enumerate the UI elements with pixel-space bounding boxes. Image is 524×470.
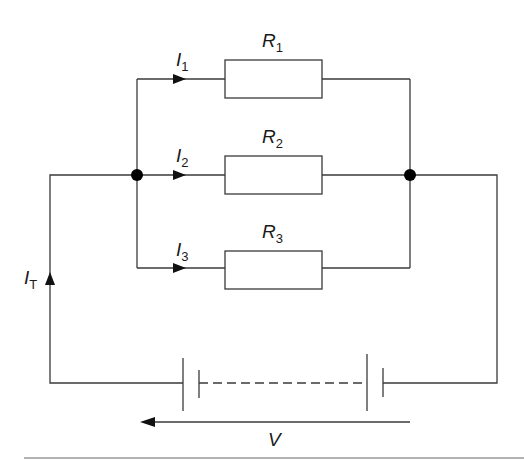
label-i3: I3 bbox=[176, 239, 189, 264]
label-i2: I2 bbox=[176, 145, 189, 170]
resistor-r2 bbox=[225, 156, 322, 194]
resistor-r1 bbox=[225, 60, 322, 98]
resistor-r3 bbox=[225, 251, 322, 289]
label-r2: R2 bbox=[262, 126, 283, 151]
i1-arrow-icon bbox=[173, 74, 186, 84]
left-main-wire bbox=[50, 175, 183, 383]
i3-arrow-icon bbox=[173, 263, 186, 273]
label-it: IT bbox=[24, 267, 37, 292]
i2-arrow-icon bbox=[173, 170, 186, 180]
label-i1: I1 bbox=[176, 49, 189, 74]
right-junction-node bbox=[404, 169, 416, 181]
left-junction-node bbox=[131, 169, 143, 181]
it-arrow-icon bbox=[45, 272, 55, 285]
label-v: V bbox=[268, 429, 283, 450]
voltage-arrow-icon bbox=[140, 417, 155, 427]
parallel-circuit-diagram: I1 R1 I2 R2 I3 R3 IT V bbox=[0, 0, 524, 470]
label-r3: R3 bbox=[262, 221, 283, 246]
right-main-wire bbox=[383, 175, 497, 383]
label-r1: R1 bbox=[262, 30, 283, 55]
